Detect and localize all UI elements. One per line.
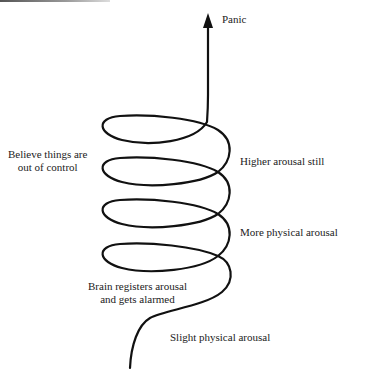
brain-line-1: Brain registers arousal: [88, 280, 187, 293]
panic-arrow: [207, 18, 208, 122]
brain-line-2: and gets alarmed: [88, 293, 187, 306]
panic-label: Panic: [222, 13, 246, 26]
spiral-diagram: [0, 0, 366, 384]
slight-arousal-label: Slight physical arousal: [170, 331, 270, 344]
arrow-head-icon: [203, 13, 213, 28]
slight-arousal-text: Slight physical arousal: [170, 331, 270, 343]
more-arousal-label: More physical arousal: [240, 226, 338, 239]
believe-line-1: Believe things are: [8, 148, 87, 161]
higher-arousal-label: Higher arousal still: [240, 155, 324, 168]
believe-label: Believe things are out of control: [8, 148, 87, 174]
brain-label: Brain registers arousal and gets alarmed: [88, 280, 187, 306]
believe-line-2: out of control: [8, 161, 87, 174]
panic-text: Panic: [222, 13, 246, 25]
higher-arousal-text: Higher arousal still: [240, 155, 324, 167]
more-arousal-text: More physical arousal: [240, 226, 338, 238]
